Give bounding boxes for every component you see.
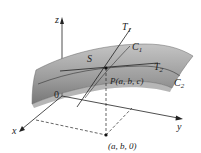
diagram-canvas: z 0 x y S T1 T2 C1 C2 P(a, b, c) (a, b, … <box>0 0 201 153</box>
y-label: y <box>176 121 182 132</box>
surface-diagram: z 0 x y S T1 T2 C1 C2 P(a, b, c) (a, b, … <box>0 0 201 153</box>
y-axis <box>62 96 178 118</box>
point-p <box>104 66 107 69</box>
dashed-x-line <box>36 120 106 135</box>
projection-label: (a, b, 0) <box>108 141 137 151</box>
x-label: x <box>11 125 17 136</box>
z-arrow-icon <box>60 17 64 24</box>
dashed-y-line <box>106 108 132 135</box>
c2-label: C2 <box>174 77 185 90</box>
point-p-label: P(a, b, c) <box>109 76 144 86</box>
z-label: z <box>54 14 59 25</box>
point-projection <box>104 133 107 136</box>
t1-label: T1 <box>122 21 131 34</box>
y-arrow-icon <box>176 116 184 121</box>
surface-label: S <box>87 53 92 64</box>
origin-label: 0 <box>54 89 59 100</box>
